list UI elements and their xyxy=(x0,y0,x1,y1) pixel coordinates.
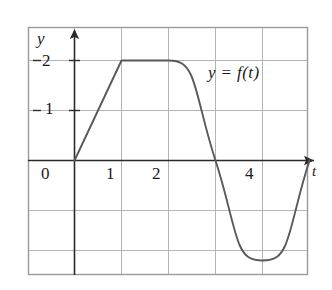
x-tick-label-4: 4 xyxy=(245,165,254,182)
function-annotation: y = f(t) xyxy=(208,64,260,81)
origin-label: 0 xyxy=(41,165,50,182)
graph-canvas xyxy=(0,0,332,290)
y-axis-label: y xyxy=(37,30,45,47)
t-axis-label: t xyxy=(312,164,316,179)
y-tick-label-2: 2 xyxy=(42,52,51,69)
x-tick-label-2: 2 xyxy=(152,165,161,182)
y-tick-label-1: 1 xyxy=(45,100,54,117)
graph-figure: y t y = f(t) 2 1 0 1 2 4 xyxy=(0,0,332,290)
x-tick-label-1: 1 xyxy=(106,165,115,182)
